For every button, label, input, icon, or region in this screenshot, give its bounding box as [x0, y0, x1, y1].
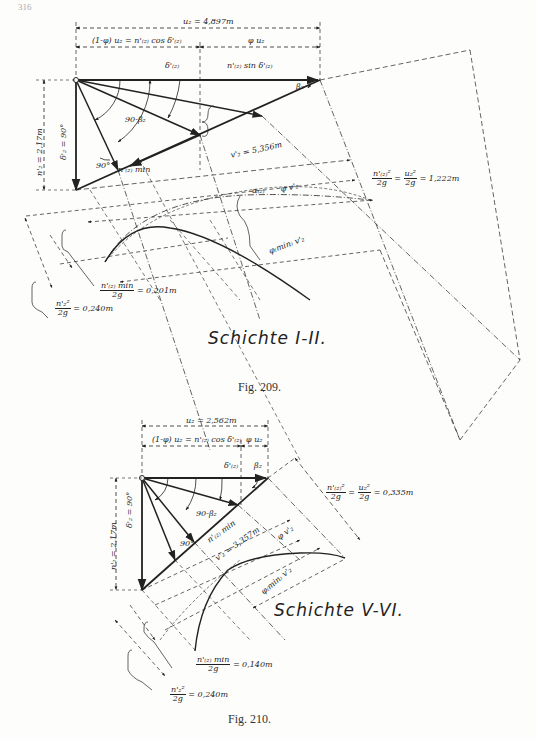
fig210-n2-height-label: n'₂ = 2,17m — [110, 522, 118, 570]
fig209-caption: Fig. 209. — [238, 380, 281, 395]
fig210-caption: Fig. 210. — [228, 712, 271, 727]
fig209-angle-90-beta-label: 90-β₂ — [125, 116, 146, 124]
fig209-nmin-formula: n'₍₂₎ min2g = 0,201m — [100, 282, 177, 299]
fig210-delta2-90-label: δ'₂ = 90° — [126, 492, 134, 528]
fig209-delta2-90-label: δ'₂ = 90° — [60, 124, 68, 160]
fig210-right-angle-label: 90° — [180, 540, 194, 548]
fig209-drawing — [0, 0, 536, 739]
fig210-beta2-label: β₂ — [254, 462, 262, 470]
fig209-n-sin-label: n'₍₂₎ sin δ'₍₂₎ — [227, 62, 273, 70]
fig209-title: Schichte I-II. — [208, 328, 327, 348]
fig210-right-segment-label: φ u₂ — [246, 436, 263, 444]
fig209-beta2-label: β₂ — [296, 83, 304, 91]
fig210-head-formula: n'₍₂₎²2g = u₂²2g = 0,335m — [326, 484, 413, 501]
fig209-n-min-label: n'₍₂₎ min — [118, 166, 150, 174]
fig210-angle-90-beta-label: 90-β₂ — [196, 510, 217, 518]
fig210-left-segment-label: (1-φ) u₂ = n'₍₂₎ cos δ'₍₂₎ — [152, 436, 241, 444]
fig209-head-formula: n'₍₂₎²2g = u₂²2g = 1,222m — [372, 170, 459, 187]
fig209-right-angle-label: 90° — [96, 162, 110, 170]
fig209-n2-formula: n'₂²2g = 0,240m — [55, 300, 113, 317]
fig209-n2-height-label: n'₂ = 2,17m — [36, 128, 44, 176]
fig209-delta-label: δ'₍₂₎ — [165, 62, 179, 70]
fig210-delta-label: δ'₍₂₎ — [224, 462, 238, 470]
fig210-nmin-formula: n'₍₂₎ min2g = 0,140m — [196, 656, 273, 673]
fig209-right-segment-label: φ u₂ — [248, 37, 265, 45]
fig210-u2-label: u₂ = 2,562m — [186, 417, 237, 425]
fig210-title: Schichte V-VI. — [274, 600, 404, 620]
fig209-alpha-label: α₍₂₎ — [252, 187, 265, 195]
fig209-u2-label: u₂ = 4,897m — [183, 18, 234, 26]
fig209-left-segment-label: (1-φ) u₂ = n'₍₂₎ cos δ'₍₂₎ — [92, 37, 181, 45]
fig210-n2-formula: n'₂²2g = 0,240m — [170, 686, 228, 703]
